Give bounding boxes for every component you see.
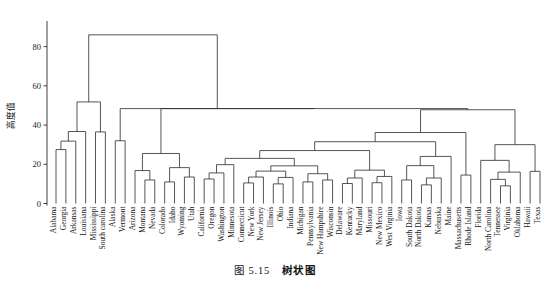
leaf-label: Minnesota: [227, 206, 236, 238]
dendrogram-link: [217, 165, 234, 204]
leaf-label: Maine: [444, 206, 453, 226]
y-axis: 020406080: [33, 21, 48, 209]
dendrogram-link: [491, 179, 506, 203]
dendrogram-link: [249, 177, 264, 203]
dendrogram-link: [244, 183, 254, 204]
leaf-label: Ohio: [276, 206, 285, 221]
leaf-label: Missouri: [365, 207, 374, 233]
leaf-label: Illinois: [266, 206, 275, 227]
dendrogram-link: [377, 176, 392, 203]
leaf-label: Iowa: [395, 206, 404, 221]
dendrogram-link: [170, 168, 190, 182]
dendrogram-plot-area: 020406080 AlabamaGeorgiaArkansasLouisian…: [0, 0, 550, 258]
dendrogram-link: [315, 142, 436, 157]
dendrogram-link: [308, 174, 328, 182]
dendrogram-link: [89, 35, 218, 109]
leaf-label: Colorado: [158, 206, 167, 234]
dendrogram-link: [77, 102, 100, 132]
leaf-label: Georgia: [59, 206, 68, 230]
leaf-label: Hawaii: [523, 207, 532, 228]
leaf-label: South carolina: [98, 206, 107, 250]
dendrogram-link: [278, 177, 293, 203]
leaf-label: Wyoming: [177, 206, 186, 235]
leaf-label: Louisiana: [79, 206, 88, 236]
leaf-labels: AlabamaGeorgiaArkansasLouisianaMississip…: [49, 206, 542, 255]
dendrogram-link: [204, 179, 214, 204]
dendrogram-link: [323, 180, 333, 204]
dendrogram-link: [271, 166, 318, 174]
dendrogram-link: [165, 182, 175, 204]
leaf-label: Pennsylvania: [306, 206, 315, 246]
dendrogram-link: [402, 180, 412, 204]
dendrogram-link: [120, 109, 314, 141]
dendrogram-link: [260, 151, 370, 171]
leaf-label: Arizona: [128, 206, 137, 231]
leaf-label: Montana: [138, 206, 147, 233]
y-axis-label-text: 高度值: [5, 102, 16, 129]
dendrogram-link: [421, 185, 431, 204]
dendrogram-link: [421, 110, 515, 145]
leaf-label: Tennessee: [493, 206, 502, 237]
leaf-label: New Hampshire: [316, 206, 325, 255]
leaf-label: Maryland: [355, 206, 364, 235]
dendrogram-link: [481, 160, 509, 203]
figure-number: 图 5.15: [234, 265, 270, 276]
leaf-label: Vermont: [118, 206, 127, 232]
leaf-label: New Jersey: [256, 206, 265, 241]
leaf-label: Washington: [217, 206, 226, 241]
y-tick-label: 40: [33, 120, 42, 130]
y-tick-label: 80: [33, 42, 42, 52]
leaf-label: Kentucky: [345, 206, 354, 235]
figure-title: 树状图: [282, 265, 316, 276]
dendrogram-link: [68, 132, 85, 204]
y-tick-label: 60: [33, 81, 42, 91]
leaf-label: New Mexico: [375, 206, 384, 245]
leaf-label: Mississippi: [89, 207, 98, 241]
dendrogram-link: [225, 158, 294, 165]
leaf-label: Alaska: [108, 206, 117, 227]
leaf-label: West Virginia: [385, 206, 394, 247]
dendrogram-link: [342, 184, 352, 204]
dendrogram-svg: 020406080 AlabamaGeorgiaArkansasLouisian…: [0, 0, 550, 258]
leaf-label: North Carolina: [484, 206, 493, 251]
leaf-label: Texas: [533, 206, 542, 223]
y-tick-label: 20: [33, 159, 42, 169]
dendrogram-links: [56, 35, 540, 204]
leaf-label: Alabama: [49, 206, 58, 233]
dendrogram-link: [96, 132, 106, 204]
leaf-label: Oregon: [207, 206, 216, 228]
dendrogram-link: [303, 182, 313, 204]
dendrogram-link: [135, 171, 150, 204]
leaf-label: South Dakota: [405, 206, 414, 247]
y-axis-title: 高度值: [5, 102, 16, 129]
leaf-label: Nebraska: [434, 206, 443, 235]
leaf-label: Arkansas: [69, 206, 78, 234]
leaf-label: California: [197, 206, 206, 237]
dendrogram-link: [256, 171, 286, 177]
dendrogram-link: [375, 133, 466, 176]
dendrogram-link: [145, 180, 155, 204]
dendrogram-link: [372, 183, 382, 204]
dendrogram-link: [347, 178, 362, 203]
leaf-label: Wisconsin: [326, 206, 335, 237]
dendrogram-link: [209, 173, 224, 204]
dendrogram-link: [56, 150, 66, 204]
leaf-label: Indiana: [286, 206, 295, 229]
dendrogram-link: [495, 145, 535, 172]
dendrogram-link: [273, 184, 283, 204]
dendrogram-link: [184, 177, 194, 203]
leaf-label: Connecticut: [237, 206, 246, 243]
leaf-label: Delaware: [335, 206, 344, 235]
leaf-label: Rhode Island: [464, 206, 473, 246]
leaf-label: Virginia: [503, 206, 512, 231]
dendrogram-link: [530, 171, 540, 203]
dendrogram-link: [426, 178, 441, 203]
dendrogram-link: [420, 156, 451, 203]
dendrogram-figure: 020406080 AlabamaGeorgiaArkansasLouisian…: [0, 0, 550, 293]
leaf-label: Idaho: [168, 206, 177, 223]
leaf-label: North Dakota: [414, 206, 423, 247]
leaf-label: Michigan: [296, 206, 305, 235]
y-tick-label: 0: [37, 199, 41, 209]
dendrogram-link: [461, 175, 471, 203]
leaf-label: New York: [247, 206, 256, 236]
